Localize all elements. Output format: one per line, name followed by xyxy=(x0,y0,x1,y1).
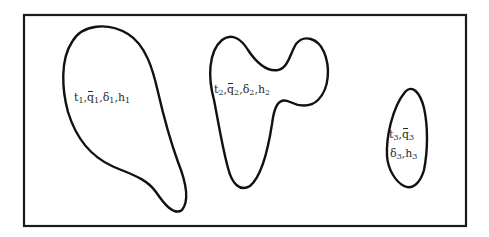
label-q-bar: q xyxy=(402,129,409,140)
region-3-label-line-2: δ3,h3 xyxy=(390,148,417,161)
label-h: h xyxy=(258,83,265,96)
label-q-bar: q xyxy=(87,92,94,103)
diagram-svg xyxy=(0,0,489,237)
region-1-label: t1,q1,δ1,h1 xyxy=(74,92,130,105)
label-subscript: 3 xyxy=(409,133,414,142)
region-2-label: t2,q2,δ2,h2 xyxy=(214,84,270,97)
region-3-label-line-1: t3,q3 xyxy=(389,129,414,142)
label-delta: δ xyxy=(390,147,397,160)
label-h: h xyxy=(118,91,125,104)
label-subscript: 3 xyxy=(412,152,417,161)
label-subscript: 1 xyxy=(125,96,130,105)
region-2-outline xyxy=(210,37,328,188)
label-q-bar: q xyxy=(227,84,234,95)
label-subscript: 2 xyxy=(265,88,270,97)
region-1-outline xyxy=(63,26,186,211)
diagram-canvas: t1,q1,δ1,h1 t2,q2,δ2,h2 t3,q3 δ3,h3 xyxy=(0,0,489,237)
